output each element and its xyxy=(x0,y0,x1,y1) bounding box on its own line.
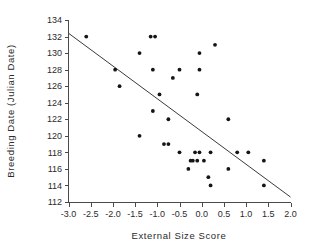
data-point xyxy=(84,35,88,39)
data-point xyxy=(262,184,266,188)
y-tick-label: 114 xyxy=(48,181,62,191)
data-point xyxy=(162,142,166,146)
data-point xyxy=(171,76,175,80)
data-point xyxy=(209,150,213,154)
x-tick-label: -2.5 xyxy=(83,209,99,219)
data-point xyxy=(262,159,266,163)
x-axis: -3.0-2.5-2.0-1.5-1.0-0.50.00.51.01.52.0 xyxy=(61,203,297,220)
x-tick-label: -2.0 xyxy=(105,209,121,219)
x-tick-label: 2.0 xyxy=(284,209,297,219)
x-tick-label: 1.0 xyxy=(240,209,253,219)
y-tick-label: 116 xyxy=(48,164,62,174)
chart-canvas: 112114116118120122124126128130132134 -3.… xyxy=(0,0,311,246)
data-point xyxy=(198,51,202,55)
x-axis-ticks xyxy=(70,203,292,207)
data-point xyxy=(178,68,182,72)
y-tick-label: 124 xyxy=(47,98,62,108)
y-tick-label: 118 xyxy=(48,148,62,158)
data-point xyxy=(118,84,122,88)
data-point xyxy=(195,93,199,97)
y-tick-label: 128 xyxy=(47,65,62,75)
y-tick-label: 130 xyxy=(47,48,62,58)
data-point xyxy=(186,167,190,171)
y-tick-label: 120 xyxy=(47,131,62,141)
data-point xyxy=(193,150,197,154)
data-point xyxy=(213,43,217,47)
data-point xyxy=(149,35,153,39)
data-point xyxy=(151,109,155,113)
data-point xyxy=(226,167,230,171)
y-tick-label: 126 xyxy=(47,81,62,91)
x-tick-label: -1.5 xyxy=(127,209,143,219)
data-point xyxy=(209,184,213,188)
y-tick-label: 134 xyxy=(47,15,62,25)
x-tick-label: -3.0 xyxy=(61,209,77,219)
data-point xyxy=(198,150,202,154)
x-tick-label: 0.5 xyxy=(218,209,231,219)
data-point xyxy=(138,51,142,55)
data-point xyxy=(167,142,171,146)
y-tick-label: 122 xyxy=(47,114,62,124)
data-point xyxy=(167,117,171,121)
data-point xyxy=(191,159,195,163)
data-point xyxy=(138,134,142,138)
data-point xyxy=(198,68,202,72)
data-point xyxy=(158,93,162,97)
data-point xyxy=(246,150,250,154)
data-point xyxy=(195,159,199,163)
scatter-plot-figure: 112114116118120122124126128130132134 -3.… xyxy=(0,0,311,246)
data-point xyxy=(226,117,230,121)
x-tick-label: -1.0 xyxy=(150,209,166,219)
y-tick-label: 112 xyxy=(48,197,62,207)
data-point xyxy=(235,150,239,154)
data-point xyxy=(153,35,157,39)
x-tick-label: 1.5 xyxy=(262,209,275,219)
x-tick-label: -0.5 xyxy=(172,209,188,219)
regression-line xyxy=(69,33,291,197)
data-point xyxy=(206,175,210,179)
x-axis-title: External Size Score xyxy=(132,230,227,241)
data-point xyxy=(113,68,117,72)
y-axis-tick-labels: 112114116118120122124126128130132134 xyxy=(47,15,62,207)
data-points-group xyxy=(84,35,265,188)
data-point xyxy=(202,159,206,163)
data-point xyxy=(151,68,155,72)
y-axis-ticks xyxy=(65,21,69,203)
data-point xyxy=(178,150,182,154)
y-axis: 112114116118120122124126128130132134 xyxy=(47,15,69,207)
y-axis-title: Breeding Date (Julian Date) xyxy=(5,44,16,177)
y-tick-label: 132 xyxy=(47,32,62,42)
x-tick-label: 0.0 xyxy=(195,209,208,219)
x-axis-tick-labels: -3.0-2.5-2.0-1.5-1.0-0.50.00.51.01.52.0 xyxy=(61,209,297,219)
